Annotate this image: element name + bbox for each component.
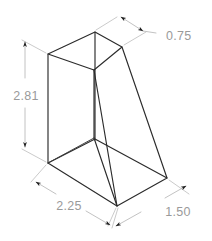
dimension-line-base-length-b (86, 211, 110, 225)
extension-line-base-left (31, 165, 46, 182)
extension-line-height-bottom (22, 149, 46, 162)
technical-drawing-canvas: 0.75 2.81 2.25 1.50 (0, 0, 212, 241)
top-face-outline (48, 32, 122, 70)
dimension-top-width (96, 17, 156, 45)
dimension-label-top-width: 0.75 (166, 29, 192, 43)
dimension-line-base-depth-a (116, 212, 141, 226)
dimension-layer (22, 17, 189, 228)
extension-line-top-right (124, 32, 146, 45)
extension-line-base-right (169, 180, 189, 194)
extension-line-base-front-left (108, 208, 116, 226)
dimension-line-top-width (121, 17, 143, 31)
extension-line-height-top (22, 40, 46, 53)
dimension-line-base-depth-b (165, 186, 186, 198)
dimension-label-base-length: 2.25 (56, 199, 82, 213)
dimension-base-length (31, 165, 116, 226)
base-edge-left-rear (48, 138, 94, 163)
isometric-wedge-drawing: 0.75 2.81 2.25 1.50 (0, 0, 212, 241)
dimension-text-layer: 0.75 2.81 2.25 1.50 (13, 29, 191, 219)
slant-edge-right (122, 47, 167, 178)
dimension-label-base-depth: 1.50 (165, 205, 191, 219)
wedge-solid-edges (48, 32, 167, 206)
extension-line-top-back (96, 17, 117, 30)
dimension-label-height: 2.81 (13, 89, 39, 103)
dimension-line-base-length-a (36, 182, 56, 194)
base-diagonal-edge (94, 138, 117, 206)
slant-edge-front (94, 70, 117, 206)
